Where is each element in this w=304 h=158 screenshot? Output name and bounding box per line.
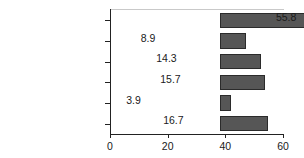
bar-row: Medicaid15.7 <box>110 72 283 93</box>
bar[interactable] <box>220 116 268 131</box>
bar-value-label: 55.8 <box>276 10 296 25</box>
y-axis-tick <box>105 103 110 104</box>
bar-fill <box>220 54 261 69</box>
x-axis-tick-label: 0 <box>107 140 113 152</box>
y-axis-tick <box>105 20 110 21</box>
bar-value-label: 16.7 <box>163 113 183 128</box>
x-axis-tick-label: 20 <box>162 140 174 152</box>
x-axis-tick <box>225 134 226 138</box>
plot-area: Employment-based55.8Direct-purchase8.9Me… <box>110 10 283 134</box>
x-axis-tick <box>168 134 169 138</box>
x-axis-line <box>110 134 284 135</box>
bar[interactable] <box>220 54 261 69</box>
bar[interactable] <box>220 33 246 48</box>
y-axis-tick <box>105 62 110 63</box>
bar-fill <box>220 75 265 90</box>
bar-row: Employment-based55.8 <box>110 10 283 31</box>
bar-fill <box>220 33 246 48</box>
bar-row: Military3.9 <box>110 93 283 114</box>
bar-chart: Employment-based55.8Direct-purchase8.9Me… <box>0 0 304 158</box>
x-axis-tick <box>110 134 111 138</box>
x-axis-tick <box>283 134 284 138</box>
y-axis-tick <box>105 41 110 42</box>
bar-value-label: 14.3 <box>156 51 176 66</box>
bar-value-label: 15.7 <box>160 72 180 87</box>
x-axis-tick-label: 40 <box>219 140 231 152</box>
bar-value-label: 8.9 <box>141 31 156 46</box>
bar[interactable] <box>220 75 265 90</box>
bar-row: Medicare14.3 <box>110 51 283 72</box>
bar-value-label: 3.9 <box>126 93 141 108</box>
bar-fill <box>220 95 231 110</box>
bar[interactable] <box>220 95 231 110</box>
x-axis-tick-label: 60 <box>277 140 289 152</box>
y-axis-tick <box>105 82 110 83</box>
bar-row: Direct-purchase8.9 <box>110 31 283 52</box>
y-axis-tick <box>105 124 110 125</box>
bar-fill <box>220 116 268 131</box>
bar-row: Not covered16.7 <box>110 113 283 134</box>
